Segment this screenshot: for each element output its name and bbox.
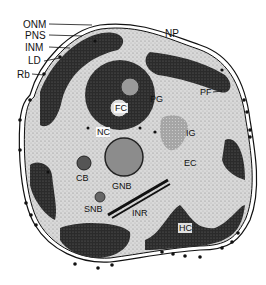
label-ig: IG [186,128,196,138]
label-fc-text: FC [115,103,127,113]
label-pg-text: PG [150,94,163,104]
label-ld-text: LD [28,55,41,66]
label-inr-text: INR [132,208,148,218]
label-hc-text: HC [179,223,192,233]
label-gnb-text: GNB [112,181,132,191]
label-inr: INR [132,208,148,218]
label-inm-text: INM [25,42,43,53]
label-onm-text: ONM [23,19,46,30]
coiled-body [77,156,91,170]
label-snb-text: SNB [84,204,103,214]
leader-onm [49,24,92,25]
label-rb-text: Rb [17,69,30,80]
label-pg: PG [150,94,163,104]
label-nc-text: NC [97,127,110,137]
small-nuclear-body [95,192,105,202]
label-cb-text: CB [76,173,89,183]
label-fc: FC [114,103,128,113]
label-onm: ONM [23,19,92,30]
label-pns: PNS [25,30,82,41]
label-ec: EC [184,158,197,168]
label-np: NP [165,28,179,39]
leader-pns [49,35,82,36]
leader-rb [32,74,44,75]
nucleolus [85,60,155,130]
label-pf-text: PF [200,87,212,97]
label-pns-text: PNS [25,30,46,41]
label-nc: NC [96,127,110,137]
label-ig-text: IG [186,128,196,138]
fibrillar-center-upper [121,78,139,96]
cell-nucleus-diagram: ONM PNS INM LD Rb NP PF FC PG NC IG EC [0,0,266,285]
giant-nuclear-body [105,138,143,176]
label-np-text: NP [165,28,179,39]
label-gnb: GNB [112,181,132,191]
label-snb: SNB [84,204,103,214]
label-cb: CB [76,173,89,183]
label-hc: HC [178,223,192,233]
label-ec-text: EC [184,158,197,168]
